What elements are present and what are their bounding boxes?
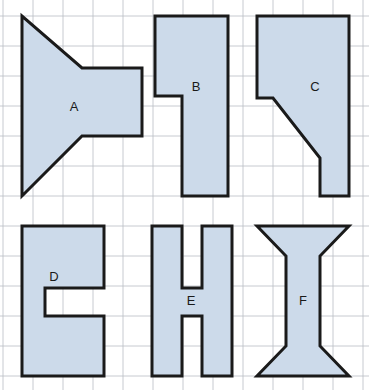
polygon-outline-c[interactable] — [257, 16, 349, 196]
polygon-label-c: C — [310, 79, 319, 94]
polygon-label-b: B — [192, 79, 201, 94]
polygon-d[interactable]: D — [22, 226, 104, 376]
polygon-label-e: E — [187, 293, 196, 308]
polygon-a[interactable]: A — [22, 16, 142, 196]
polygon-outline-b[interactable] — [155, 16, 228, 196]
polygon-c[interactable]: C — [257, 16, 349, 196]
polygon-outline-a[interactable] — [22, 16, 142, 196]
polygon-label-d: D — [49, 269, 58, 284]
polygon-label-a: A — [70, 99, 79, 114]
polygon-outline-d[interactable] — [22, 226, 104, 376]
polygon-label-f: F — [299, 293, 307, 308]
polygon-b[interactable]: B — [155, 16, 228, 196]
shapes-container: ABCDEF — [0, 0, 369, 390]
worksheet-canvas: ABCDEF — [0, 0, 369, 390]
polygon-e[interactable]: E — [152, 226, 232, 376]
polygon-f[interactable]: F — [257, 226, 349, 376]
